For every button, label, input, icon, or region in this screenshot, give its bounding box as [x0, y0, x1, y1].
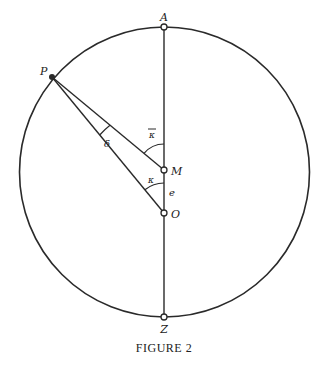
point-Z-marker — [161, 314, 167, 320]
label-M: M — [170, 165, 183, 178]
figure-2-diagram: A Z M O P κ κ δ e FIGURE 2 — [0, 0, 322, 365]
point-O-marker — [161, 210, 167, 216]
label-delta: δ — [104, 138, 110, 149]
figure-caption: FIGURE 2 — [136, 341, 192, 355]
angle-arc-kappa-bar — [144, 144, 164, 153]
point-A-marker — [161, 24, 167, 30]
point-M-marker — [161, 167, 167, 173]
line-PM — [52, 77, 164, 170]
label-P: P — [39, 65, 48, 78]
label-O: O — [171, 208, 180, 221]
label-kappa: κ — [147, 175, 154, 185]
label-kappa-bar: κ — [148, 130, 155, 140]
point-P-marker — [49, 74, 55, 80]
angle-arc-delta — [100, 125, 110, 135]
label-A: A — [159, 11, 168, 24]
label-Z: Z — [159, 323, 168, 336]
label-e: e — [169, 187, 175, 198]
